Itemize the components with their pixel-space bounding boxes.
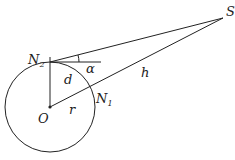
label-d: d [64,72,72,87]
label-h: h [141,65,149,80]
center-point [48,105,51,108]
label-r: r [69,102,76,117]
label-O: O [38,111,49,126]
label-alpha: α [86,61,95,76]
geometry-diagram: S N2 α d h N1 O r [0,0,235,160]
label-N1: N1 [95,91,112,108]
label-N2: N2 [27,52,44,69]
angle-alpha-arc [78,55,79,62]
label-S: S [226,4,235,19]
line-N2-S [50,18,223,62]
